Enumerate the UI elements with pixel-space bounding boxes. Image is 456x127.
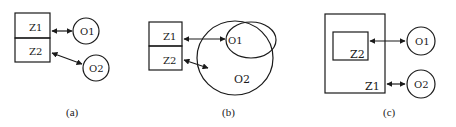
caption-b: (b) — [222, 106, 235, 119]
panel-a: Z1 Z2 O1 O2 (a) — [15, 13, 109, 119]
object-o1-label: O1 — [228, 35, 243, 46]
box-z2-label: Z2 — [29, 46, 42, 57]
arrow-z2-o2 — [184, 60, 208, 68]
object-o1-label: O1 — [80, 26, 95, 37]
caption-c: (c) — [383, 106, 396, 119]
box-z2-label: Z2 — [163, 55, 176, 66]
caption-a: (a) — [66, 106, 79, 119]
box-z1-label: Z1 — [29, 22, 42, 33]
box-z2-label: Z2 — [350, 48, 365, 61]
panel-b: Z1 Z2 O2 O1 (b) — [149, 21, 276, 119]
box-z1-label: Z1 — [163, 31, 176, 42]
diagram-canvas: Z1 Z2 O1 O2 (a) Z1 Z2 O2 O1 (b) Z1 Z2 O1… — [0, 0, 456, 127]
arrow-z2-o2 — [52, 53, 82, 64]
object-o2-label: O2 — [234, 73, 250, 86]
object-o2-label: O2 — [414, 79, 429, 90]
panel-c: Z1 Z2 O1 O2 (c) — [325, 14, 435, 119]
object-o2-label: O2 — [89, 63, 104, 74]
box-z1-label: Z1 — [365, 80, 380, 93]
object-o1-label: O1 — [415, 36, 430, 47]
